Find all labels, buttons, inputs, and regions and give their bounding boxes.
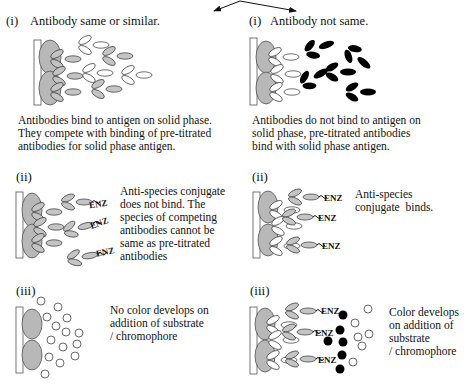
- left-panel-ii-caption-2: does not bind. The: [120, 198, 205, 211]
- enz-label: ENZ: [322, 240, 341, 253]
- right-panel-i-graphic: [250, 31, 377, 105]
- right-panel-ii-caption-2: conjugate binds.: [355, 201, 433, 214]
- enz-label: ENZ: [318, 354, 337, 367]
- left-panel-ii-label: (ii): [16, 170, 32, 184]
- substrate-molecules: [37, 297, 83, 378]
- left-panel-ii-caption-3: species of competing: [120, 211, 217, 224]
- left-panel-ii-caption-5: same as pre-titrated: [120, 237, 210, 250]
- right-panel-ii-label: (ii): [252, 170, 268, 184]
- left-panel-ii-caption-4: antibodies cannot be: [120, 224, 215, 237]
- enz-label: ENZ: [315, 327, 334, 340]
- right-panel-ii-graphic: [253, 187, 327, 258]
- right-panel-iii-caption-4: / chromophore: [389, 345, 456, 358]
- right-panel-i-caption-2: solid phase, pre-titrated antibodies: [252, 127, 410, 140]
- left-panel-i-label: (i): [6, 14, 18, 28]
- left-panel-ii-caption-6: antibodies: [120, 250, 167, 263]
- right-panel-i-title: Antibody not same.: [270, 14, 368, 28]
- enz-label: ENZ: [88, 197, 108, 212]
- left-panel-i-caption-2: They compete with binding of pre-titrate…: [18, 127, 211, 140]
- left-panel-iii-graphic: [16, 297, 83, 378]
- left-panel-iii-label: (iii): [16, 284, 36, 298]
- left-panel-i-title: Antibody same or similar.: [30, 14, 160, 28]
- right-panel-i-label: (i): [249, 14, 261, 28]
- right-panel-iii-graphic: [250, 301, 373, 374]
- left-panel-i-caption-1: Antibodies bind to antigen on solid phas…: [18, 114, 212, 127]
- left-panel-iii-caption-3: / chromophore: [110, 330, 177, 343]
- left-panel-i-graphic: [34, 34, 152, 105]
- right-panel-ii-caption-1: Anti-species: [355, 188, 412, 201]
- right-panel-i-caption-1: Antibodies do not bind to antigen on: [252, 114, 421, 127]
- branch-arrow: [214, 1, 296, 11]
- left-panel-ii-caption-1: Anti-species conjugate: [120, 185, 225, 198]
- enz-label: ENZ: [324, 192, 343, 205]
- substrate-molecules: [349, 305, 373, 366]
- right-panel-iii-caption-1: Color develops: [389, 306, 459, 319]
- right-panel-iii-caption-3: substrate: [389, 332, 430, 345]
- right-panel-i-caption-3: bind with solid phase antigen.: [252, 140, 390, 153]
- left-panel-i-caption-3: antibodies for solid phase antigen.: [18, 140, 175, 153]
- right-panel-iii-caption-2: on addition of: [389, 319, 454, 332]
- left-panel-iii-caption-1: No color develops on: [110, 304, 209, 317]
- enz-label: ENZ: [321, 305, 340, 318]
- enz-label: ENZ: [318, 212, 337, 225]
- right-panel-iii-label: (iii): [250, 284, 270, 298]
- left-panel-iii-caption-2: addition of substrate: [110, 317, 204, 330]
